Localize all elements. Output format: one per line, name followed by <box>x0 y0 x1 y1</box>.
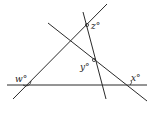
angle-label-z: z° <box>90 21 100 31</box>
geometry-diagram: w° z° y° x° <box>0 0 152 118</box>
angle-label-w: w° <box>15 74 27 84</box>
angle-label-y: y° <box>79 62 90 72</box>
line-falling <box>48 23 147 101</box>
angle-label-x: x° <box>131 73 141 83</box>
